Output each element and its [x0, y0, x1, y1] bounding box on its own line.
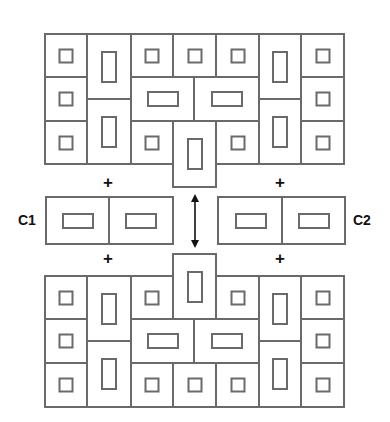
vertical-rect-icon — [101, 293, 117, 325]
square-icon — [230, 135, 245, 150]
bottom-grid-cell — [215, 362, 260, 408]
bottom-grid-cell — [130, 318, 195, 364]
c2-label: C2 — [353, 213, 371, 227]
bottom-grid-cell — [215, 275, 260, 320]
vertical-rect-icon — [272, 293, 288, 325]
top-grid-cell — [86, 98, 132, 165]
top-grid-cell — [300, 120, 345, 165]
top-grid-cell — [172, 33, 217, 78]
c1-cell — [108, 196, 174, 245]
top-grid-cell — [44, 76, 88, 122]
horizontal-rect-icon — [298, 213, 330, 229]
square-icon — [315, 92, 330, 107]
top-grid-cell — [215, 33, 260, 78]
top-grid-cell — [258, 33, 302, 100]
square-icon — [145, 135, 160, 150]
bottom-grid-cell — [44, 275, 88, 320]
top-grid-cell — [130, 76, 195, 122]
plus-icon: + — [275, 250, 285, 267]
bottom-grid-cell — [86, 275, 132, 342]
bottom-grid-cell — [172, 253, 217, 320]
square-icon — [315, 334, 330, 349]
double-arrow-icon — [188, 194, 202, 248]
bottom-grid-cell — [86, 340, 132, 408]
top-grid-cell — [130, 33, 174, 78]
horizontal-rect-icon — [125, 213, 157, 229]
square-icon — [145, 378, 160, 393]
c2-cell — [281, 196, 346, 245]
top-grid-cell — [44, 120, 88, 165]
bottom-grid-cell — [44, 318, 88, 364]
plus-icon: + — [103, 174, 113, 191]
vertical-rect-icon — [101, 51, 117, 83]
plus-icon: + — [275, 174, 285, 191]
square-icon — [315, 48, 330, 63]
square-icon — [230, 378, 245, 393]
square-icon — [59, 334, 74, 349]
square-icon — [230, 48, 245, 63]
top-grid-cell — [130, 120, 174, 165]
top-grid-cell — [86, 33, 132, 100]
vertical-rect-icon — [272, 51, 288, 83]
horizontal-rect-icon — [62, 213, 94, 229]
square-icon — [315, 378, 330, 393]
vertical-rect-icon — [101, 116, 117, 148]
bottom-grid-cell — [300, 275, 345, 320]
top-grid-cell — [300, 76, 345, 122]
top-grid-cell — [172, 120, 217, 188]
vertical-rect-icon — [272, 116, 288, 148]
square-icon — [59, 48, 74, 63]
bottom-grid-cell — [130, 275, 174, 320]
square-icon — [145, 290, 160, 305]
top-grid-cell — [193, 76, 260, 122]
vertical-rect-icon — [187, 138, 203, 170]
top-grid-cell — [258, 98, 302, 165]
bottom-grid-cell — [44, 362, 88, 408]
top-grid-cell — [215, 120, 260, 165]
horizontal-rect-icon — [235, 213, 267, 229]
bottom-grid-cell — [130, 362, 174, 408]
bottom-grid-cell — [258, 275, 302, 342]
square-icon — [315, 290, 330, 305]
bottom-grid-cell — [258, 340, 302, 408]
square-icon — [187, 48, 202, 63]
top-grid-cell — [44, 33, 88, 78]
square-icon — [59, 290, 74, 305]
square-icon — [315, 135, 330, 150]
bottom-grid-cell — [193, 318, 260, 364]
horizontal-rect-icon — [147, 91, 179, 107]
square-icon — [187, 378, 202, 393]
square-icon — [59, 92, 74, 107]
plus-icon: + — [103, 250, 113, 267]
c2-cell — [217, 196, 284, 245]
bottom-grid-cell — [300, 362, 345, 408]
vertical-rect-icon — [101, 358, 117, 390]
c1-label: C1 — [18, 213, 36, 227]
vertical-rect-icon — [187, 271, 203, 303]
square-icon — [59, 135, 74, 150]
c1-cell — [45, 196, 111, 245]
square-icon — [145, 48, 160, 63]
horizontal-rect-icon — [211, 333, 243, 349]
square-icon — [59, 378, 74, 393]
vertical-rect-icon — [272, 358, 288, 390]
bottom-grid-cell — [172, 362, 217, 408]
top-grid-cell — [300, 33, 345, 78]
bottom-grid-cell — [300, 318, 345, 364]
square-icon — [230, 290, 245, 305]
horizontal-rect-icon — [211, 91, 243, 107]
horizontal-rect-icon — [147, 333, 179, 349]
